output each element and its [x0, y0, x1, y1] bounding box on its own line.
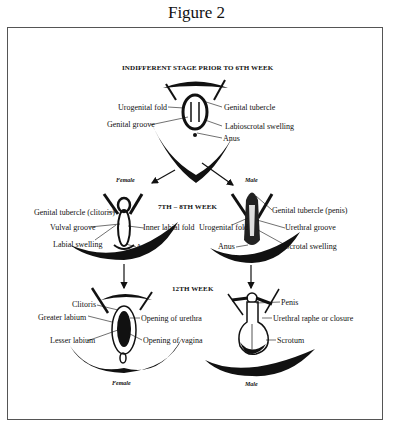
heading-12-week: 12TH WEEK	[172, 285, 213, 293]
heading-indifferent-stage: INDIFFERENT STAGE PRIOR TO 6TH WEEK	[122, 64, 273, 72]
label-anus-female: Anus	[136, 243, 153, 252]
label-vulval-groove: Vulval groove	[50, 223, 96, 232]
label-greater-labium: Greater labium	[38, 313, 86, 322]
indifferent-stage-figure	[150, 80, 240, 183]
label-genital-tubercle-clitoris: Genital tubercle (clitoris)	[34, 208, 115, 217]
label-penis: Penis	[281, 298, 298, 307]
caption-female-12: Female	[112, 380, 131, 386]
label-genital-tubercle: Genital tubercle	[224, 103, 275, 112]
label-scrotal-swelling: Scrotal swelling	[285, 242, 337, 251]
label-inner-labial-fold: Inner labial fold	[143, 223, 195, 232]
caption-female-7-8: Female	[116, 177, 135, 183]
label-urethral-groove: Urethral groove	[285, 223, 336, 232]
label-labial-swelling: Labial swelling	[53, 240, 103, 249]
label-clitoris: Clitoris	[72, 300, 96, 309]
label-opening-vagina: Opening of vagina	[143, 336, 203, 345]
label-urethral-raphe: Urethral raphe or closure	[273, 314, 353, 323]
caption-male-7-8: Male	[245, 177, 258, 183]
label-urogenital-fold-male: Urogenital fold	[199, 223, 248, 232]
caption-male-12: Male	[245, 381, 258, 387]
label-lesser-labium: Lesser labium	[50, 336, 95, 345]
male-12-week-figure	[205, 289, 315, 376]
label-anus: Anus	[223, 134, 240, 143]
label-urogenital-fold: Urogenital fold	[118, 103, 167, 112]
label-scrotum: Scrotum	[277, 336, 304, 345]
label-labioscrotal-swelling: Labioscrotal swelling	[225, 122, 294, 131]
label-anus-male: Anus	[218, 242, 235, 251]
label-opening-urethra: Opening of urethra	[141, 314, 202, 323]
label-genital-groove: Genital groove	[107, 120, 155, 129]
label-genital-tubercle-penis: Genital tubercle (penis)	[272, 206, 348, 215]
heading-7-8-week: 7TH – 8TH WEEK	[158, 203, 217, 211]
